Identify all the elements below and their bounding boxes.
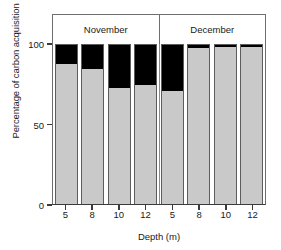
stacked-bar[interactable] (55, 44, 78, 204)
y-axis-title: Percentage of carbon acquisition (10, 0, 21, 166)
stacked-bar[interactable] (187, 44, 210, 204)
y-tick-label: 50 (4, 119, 44, 130)
bar-slot (133, 44, 160, 204)
bar-segment-gray (215, 47, 236, 204)
bar-segment-gray (241, 47, 262, 204)
bar-slot (106, 44, 133, 204)
bar-slot (159, 44, 186, 204)
bar-segment-black (135, 45, 156, 85)
x-tick-label: 8 (77, 209, 107, 220)
bar-segment-gray (109, 88, 130, 204)
stacked-bar[interactable] (161, 44, 184, 204)
y-tick-label: 0 (4, 200, 44, 211)
bar-group-container (53, 44, 265, 204)
plot-area (52, 44, 266, 205)
stacked-bar[interactable] (240, 44, 263, 204)
bar-segment-gray (135, 85, 156, 204)
bar-segment-black (109, 45, 130, 88)
x-tick-label: 8 (184, 209, 214, 220)
bar-segment-black (56, 45, 77, 64)
group-header-december: December (159, 15, 266, 44)
bar-slot (80, 44, 107, 204)
y-tick-mark (47, 204, 52, 206)
stacked-bar[interactable] (108, 44, 131, 204)
x-tick-label: 5 (50, 209, 80, 220)
y-tick-label: 100 (4, 39, 44, 50)
group-header-november: November (53, 15, 159, 44)
stacked-bar[interactable] (134, 44, 157, 204)
x-tick-label: 10 (104, 209, 134, 220)
bar-segment-gray (82, 69, 103, 204)
bar-slot (212, 44, 239, 204)
x-tick-label: 5 (157, 209, 187, 220)
bar-segment-gray (56, 64, 77, 204)
stacked-bar[interactable] (81, 44, 104, 204)
x-axis-title: Depth (m) (50, 231, 268, 242)
y-tick-mark (47, 43, 52, 45)
bar-slot (186, 44, 213, 204)
y-tick-mark (47, 124, 52, 126)
chart-figure: Percentage of carbon acquisition Novembe… (0, 0, 281, 250)
stacked-bar[interactable] (214, 44, 237, 204)
x-tick-label: 12 (238, 209, 268, 220)
bar-slot (239, 44, 266, 204)
bar-segment-black (82, 45, 103, 69)
x-tick-label: 12 (131, 209, 161, 220)
bar-slot (53, 44, 80, 204)
x-tick-label: 10 (211, 209, 241, 220)
group-header-band: November December (52, 14, 266, 44)
bar-segment-black (162, 45, 183, 91)
bar-segment-gray (162, 91, 183, 204)
bar-segment-gray (188, 48, 209, 204)
